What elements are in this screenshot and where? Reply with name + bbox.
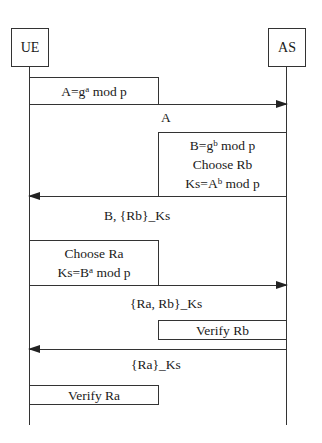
action-line: A=ga mod p — [61, 82, 127, 101]
message-arrow-ra — [29, 349, 287, 350]
actor-ue: UE — [11, 28, 49, 67]
arrowhead-left-icon — [28, 345, 40, 353]
action-line: Ks=Ba mod p — [57, 263, 130, 282]
action-box-compute-b: B=gb mod p Choose Rb Ks=Ab mod p — [158, 132, 287, 197]
actor-ue-label: UE — [21, 40, 40, 56]
arrowhead-right-icon — [276, 100, 288, 108]
action-line: Choose Ra — [65, 244, 124, 263]
message-label-a: A — [161, 110, 171, 126]
message-arrow-a — [29, 104, 287, 105]
lifeline-as — [286, 67, 287, 425]
action-box-verify-ra: Verify Ra — [29, 385, 159, 405]
arrowhead-left-icon — [28, 192, 40, 200]
actor-as-label: AS — [278, 40, 296, 56]
actor-as: AS — [268, 28, 306, 67]
action-line: Verify Rb — [196, 321, 249, 340]
arrowhead-right-icon — [276, 281, 288, 289]
action-box-choose-ra: Choose Ra Ks=Ba mod p — [29, 240, 159, 286]
action-line: Verify Ra — [68, 386, 120, 405]
action-line: Ks=Ab mod p — [185, 174, 259, 193]
message-arrow-ra-rb — [29, 285, 287, 286]
action-line: B=gb mod p — [190, 136, 255, 155]
action-box-compute-a: A=ga mod p — [29, 77, 159, 105]
action-box-verify-rb: Verify Rb — [158, 320, 287, 340]
message-label-b-rb: B, {Rb}_Ks — [104, 208, 170, 224]
message-label-ra-rb: {Ra, Rb}_Ks — [130, 296, 202, 312]
message-arrow-b-rb — [29, 196, 287, 197]
message-label-ra: {Ra}_Ks — [131, 357, 181, 373]
action-line: Choose Rb — [193, 155, 253, 174]
